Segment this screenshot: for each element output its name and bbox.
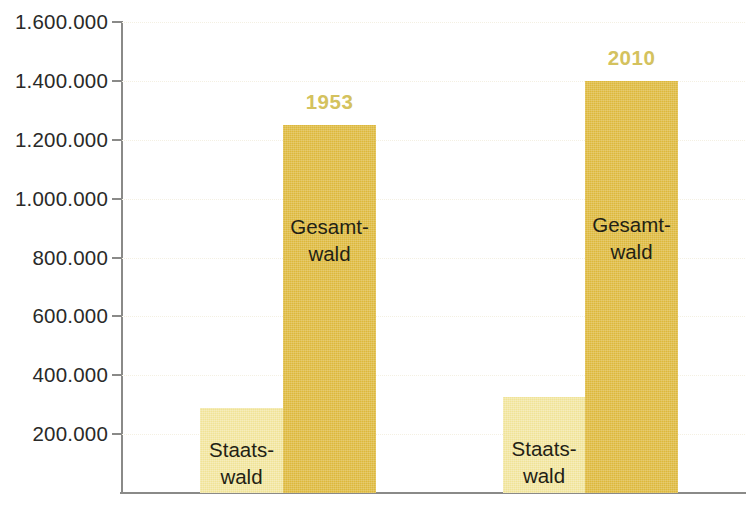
bar-label-1953-staatswald: Staats- wald <box>200 436 283 490</box>
bar-1953-staatswald[interactable]: Staats- wald <box>200 408 283 493</box>
bar-label-2010-gesamtwald: Gesamt- wald <box>585 211 678 265</box>
bar-2010-gesamtwald[interactable]: Gesamt- wald <box>585 81 678 493</box>
y-tick-label-1000000: 1.000.000 <box>0 187 108 211</box>
y-tick-label-1600000: 1.600.000 <box>0 10 108 34</box>
plot-area: Staats- wald Gesamt- wald Staats- wald G… <box>122 22 745 493</box>
y-tick-label-1400000: 1.400.000 <box>0 69 108 93</box>
y-tick-label-800000: 800.000 <box>0 246 108 270</box>
bar-label-2010-staatswald: Staats- wald <box>503 435 585 489</box>
y-tick-label-600000: 600.000 <box>0 304 108 328</box>
gridline-1600000 <box>122 22 745 24</box>
bar-chart: 1.600.000 1.400.000 1.200.000 1.000.000 … <box>0 0 748 509</box>
y-tick-label-200000: 200.000 <box>0 422 108 446</box>
bar-1953-gesamtwald[interactable]: Gesamt- wald <box>283 125 376 493</box>
year-label-2010: 2010 <box>585 46 678 70</box>
y-tick-label-1200000: 1.200.000 <box>0 128 108 152</box>
bar-label-1953-gesamtwald: Gesamt- wald <box>283 213 376 267</box>
year-label-1953: 1953 <box>283 90 376 114</box>
bar-2010-staatswald[interactable]: Staats- wald <box>503 397 585 493</box>
y-axis-labels: 1.600.000 1.400.000 1.200.000 1.000.000 … <box>0 0 108 509</box>
y-tick-label-400000: 400.000 <box>0 363 108 387</box>
